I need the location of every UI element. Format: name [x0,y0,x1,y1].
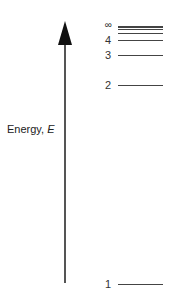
level-4-line [118,40,163,41]
level-4-label: 4 [99,34,111,46]
level-infinity-line [118,26,163,28]
level-5-line [118,33,163,34]
energy-axis-line [64,40,66,283]
level-1-label: 1 [99,278,111,290]
energy-axis-arrowhead [58,21,72,45]
level-2-label: 2 [99,79,111,91]
level-1-line [118,284,163,285]
level-3-line [118,55,163,56]
level-2-line [118,85,163,86]
level-infinity-line-2 [118,29,163,30]
level-infinity-label: ∞ [100,19,112,30]
energy-axis-label: Energy, E [7,123,55,135]
level-3-label: 3 [99,49,111,61]
